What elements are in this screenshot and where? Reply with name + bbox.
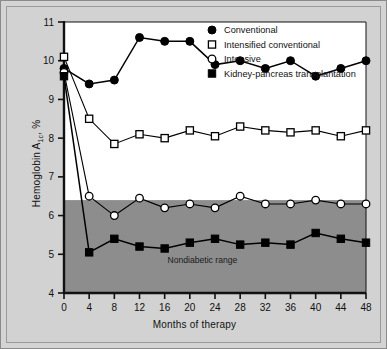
y-axis-tick-label: 7 [48, 171, 54, 182]
data-point-open-circle [161, 204, 169, 212]
data-point-filled-square [85, 249, 92, 256]
data-point-open-square [312, 127, 319, 134]
data-point-open-circle [111, 212, 119, 220]
y-axis-title-tail: , % [31, 120, 42, 135]
x-axis-tick-label: 40 [310, 302, 322, 313]
data-point-open-square [161, 135, 168, 142]
y-axis-title: Hemoglobin A1c, % [31, 74, 44, 254]
data-point-filled-square [337, 235, 344, 242]
data-point-filled-square [161, 245, 168, 252]
data-point-filled-square [236, 241, 243, 248]
data-point-open-square [237, 123, 244, 130]
data-point-filled-circle [136, 33, 144, 41]
data-point-filled-circle [161, 37, 169, 45]
nondiabetic-range-band [64, 200, 366, 293]
data-point-open-square [186, 127, 193, 134]
data-point-open-circle [262, 200, 270, 208]
x-axis-tick-label: 24 [209, 302, 221, 313]
data-point-open-square [337, 133, 344, 140]
x-axis-tick-label: 8 [112, 302, 118, 313]
data-point-filled-square [262, 239, 269, 246]
data-point-filled-square [362, 239, 369, 246]
legend-item-intensive[interactable] [204, 51, 364, 65]
x-axis-tick-label: 12 [134, 302, 146, 313]
data-point-open-circle [362, 200, 370, 208]
data-point-open-square [60, 53, 67, 60]
y-axis-tick-label: 9 [48, 94, 54, 105]
y-axis-tick-label: 5 [48, 249, 54, 260]
data-point-filled-circle [110, 76, 118, 84]
x-axis-tick-label: 4 [86, 302, 92, 313]
x-axis-tick-label: 28 [235, 302, 247, 313]
x-axis-tick-label: 36 [285, 302, 297, 313]
legend-item-kidney-pancreas-transplantation[interactable] [204, 66, 364, 80]
x-axis-tick-label: 0 [61, 302, 67, 313]
data-point-open-square [86, 115, 93, 122]
data-point-open-square [362, 127, 369, 134]
data-point-open-circle [85, 192, 93, 200]
data-point-open-circle [186, 200, 194, 208]
x-axis-tick-label: 48 [360, 302, 372, 313]
legend-item-intensified-conventional[interactable] [204, 37, 364, 51]
data-point-open-square [111, 140, 118, 147]
figure-inner-panel: Nondiabetic range45678910110481216202428… [6, 6, 381, 343]
y-axis-title-subscript: 1c [37, 135, 44, 143]
x-axis-tick-label: 44 [335, 302, 347, 313]
data-point-open-circle [312, 196, 320, 204]
data-point-filled-square [186, 239, 193, 246]
data-point-filled-square [287, 241, 294, 248]
data-point-filled-square [211, 235, 218, 242]
data-point-open-circle [337, 200, 345, 208]
data-point-open-circle [136, 194, 144, 202]
data-point-open-square [287, 129, 294, 136]
figure-container: Nondiabetic range45678910110481216202428… [0, 0, 387, 349]
x-axis-tick-label: 20 [184, 302, 196, 313]
data-point-open-circle [236, 192, 244, 200]
data-point-filled-circle [186, 37, 194, 45]
data-point-filled-square [136, 243, 143, 250]
y-axis-tick-label: 11 [44, 17, 55, 28]
nondiabetic-range-label: Nondiabetic range [168, 255, 238, 265]
data-point-filled-circle [85, 80, 93, 88]
y-axis-tick-label: 4 [48, 288, 54, 299]
x-axis-tick-label: 16 [159, 302, 171, 313]
x-axis-tick-label: 32 [260, 302, 272, 313]
chart-canvas: Nondiabetic range45678910110481216202428… [7, 7, 382, 344]
data-point-open-square [211, 133, 218, 140]
data-point-filled-square [60, 73, 67, 80]
data-point-open-square [136, 131, 143, 138]
y-axis-title-main: Hemoglobin A [31, 143, 42, 208]
data-point-filled-square [312, 229, 319, 236]
data-point-open-circle [287, 200, 295, 208]
data-point-open-square [262, 127, 269, 134]
x-axis-title: Months of therapy [1, 319, 387, 330]
data-point-open-circle [211, 204, 219, 212]
y-axis-tick-label: 10 [43, 55, 55, 66]
y-axis-tick-label: 6 [48, 210, 54, 221]
y-axis-tick-label: 8 [48, 133, 54, 144]
data-point-filled-square [111, 235, 118, 242]
legend-item-conventional[interactable] [204, 22, 364, 36]
